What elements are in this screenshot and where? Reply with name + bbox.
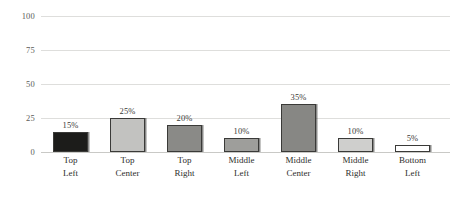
x-label-middle-right: Middle Right — [328, 154, 383, 179]
bar-slot-top-left: 15% — [53, 16, 88, 152]
x-label-line-2: Right — [157, 167, 212, 180]
x-label-top-center: Top Center — [100, 154, 155, 179]
bar-top-center[interactable] — [110, 118, 145, 152]
x-label-line-1: Bottom — [385, 154, 440, 167]
x-label-line-2: Left — [214, 167, 269, 180]
x-label-middle-center: Middle Center — [271, 154, 326, 179]
x-label-line-2: Right — [328, 167, 383, 180]
x-label-line-1: Middle — [271, 154, 326, 167]
x-label-top-left: Top Left — [43, 154, 98, 179]
gridline-0-baseline: 0 — [41, 152, 450, 153]
bar-middle-center[interactable] — [281, 104, 316, 152]
bars-layer: 15% 25% 20% 10% 35% 10% 5% — [41, 16, 450, 152]
x-label-line-2: Left — [385, 167, 440, 180]
bar-slot-middle-right: 10% — [338, 16, 373, 152]
y-tick-label-0: 0 — [31, 147, 35, 157]
x-label-top-right: Top Right — [157, 154, 212, 179]
bar-slot-bottom-left: 5% — [395, 16, 430, 152]
bar-value-label: 25% — [120, 106, 136, 116]
bar-value-label: 35% — [291, 92, 307, 102]
bar-slot-top-right: 20% — [167, 16, 202, 152]
x-label-line-1: Middle — [328, 154, 383, 167]
bar-value-label: 15% — [63, 120, 79, 130]
bar-slot-middle-center: 35% — [281, 16, 316, 152]
x-label-line-2: Left — [43, 167, 98, 180]
bar-middle-right[interactable] — [338, 138, 373, 152]
x-label-line-2: Center — [271, 167, 326, 180]
bar-chart: 100 75 50 25 0 15% 25% 20% 10% — [0, 0, 473, 197]
x-label-line-1: Top — [100, 154, 155, 167]
x-label-line-1: Top — [43, 154, 98, 167]
bar-bottom-left[interactable] — [395, 145, 430, 152]
x-axis-labels: Top Left Top Center Top Right Middle Lef… — [41, 154, 450, 194]
x-label-middle-left: Middle Left — [214, 154, 269, 179]
bar-top-right[interactable] — [167, 125, 202, 152]
bar-slot-middle-left: 10% — [224, 16, 259, 152]
y-tick-label-25: 25 — [26, 113, 35, 123]
bar-value-label: 10% — [234, 126, 250, 136]
y-tick-label-100: 100 — [22, 11, 35, 21]
bar-middle-left[interactable] — [224, 138, 259, 152]
x-label-line-1: Top — [157, 154, 212, 167]
x-label-line-2: Center — [100, 167, 155, 180]
y-tick-label-75: 75 — [26, 45, 35, 55]
bar-value-label: 10% — [348, 126, 364, 136]
x-label-line-1: Middle — [214, 154, 269, 167]
x-label-bottom-left: Bottom Left — [385, 154, 440, 179]
bar-value-label: 20% — [177, 113, 193, 123]
bar-value-label: 5% — [407, 133, 419, 143]
y-tick-label-50: 50 — [26, 79, 35, 89]
bar-top-left[interactable] — [53, 132, 88, 152]
bar-slot-top-center: 25% — [110, 16, 145, 152]
